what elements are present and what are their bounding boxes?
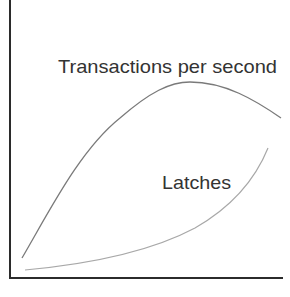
chart-svg: Transactions per second Latches <box>0 0 290 297</box>
series-latches-line <box>25 148 268 270</box>
tps-series-label: Transactions per second <box>58 56 277 77</box>
line-chart: Transactions per second Latches <box>0 0 290 297</box>
latches-series-label: Latches <box>162 172 231 193</box>
series-transactions-per-second-line <box>22 82 281 258</box>
